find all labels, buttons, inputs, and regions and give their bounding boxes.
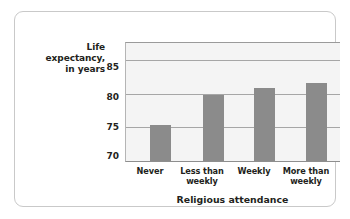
bar-less-than-weekly	[203, 95, 224, 161]
bar-never	[150, 125, 171, 161]
y-tick-label-75: 75	[97, 122, 119, 132]
y-tick-label-85: 85	[97, 62, 119, 72]
x-tick-more-line-1: More than	[274, 166, 338, 176]
plot-area	[125, 42, 340, 162]
x-tick-more-line-2: weekly	[274, 176, 338, 186]
gridline-85	[126, 60, 340, 61]
bar-weekly	[254, 88, 275, 161]
figure-frame: Life expectancy, in years 85 80 75 70 Ne…	[14, 11, 336, 207]
x-axis-title: Religious attendance	[125, 194, 340, 205]
y-tick-label-80: 80	[97, 92, 119, 102]
y-axis-title-line-3: in years	[27, 64, 105, 75]
y-axis-title-line-2: expectancy,	[27, 53, 105, 64]
y-tick-label-70: 70	[97, 151, 119, 161]
x-tick-label-more-than-weekly: More than weekly	[274, 166, 338, 186]
y-axis-title-line-1: Life	[27, 42, 105, 53]
y-axis-title: Life expectancy, in years	[27, 42, 105, 76]
bar-more-than-weekly	[306, 83, 327, 161]
x-tick-less-line-2: weekly	[171, 176, 233, 186]
